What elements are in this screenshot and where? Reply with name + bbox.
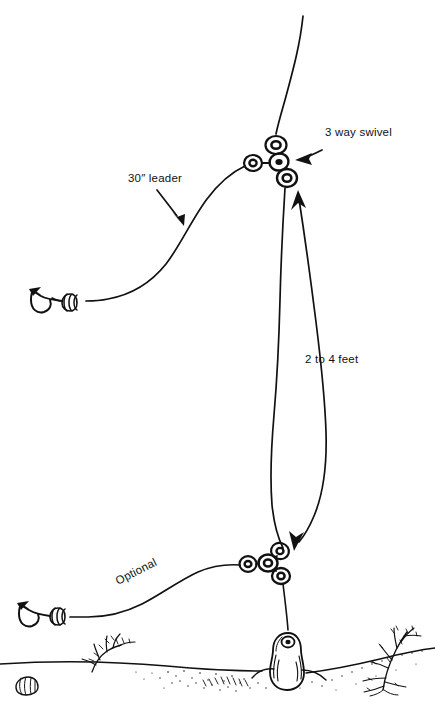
sand-stipple bbox=[135, 650, 422, 691]
label-optional-text: Optional bbox=[113, 556, 158, 587]
label-dropper-length-text: 2 to 4 feet bbox=[305, 353, 359, 365]
dropper-line bbox=[271, 188, 285, 548]
label-leader-text: 30″ leader bbox=[128, 172, 182, 184]
upper-leader-line bbox=[86, 166, 245, 301]
upper-swivel bbox=[244, 136, 297, 187]
lower-hook-knot bbox=[50, 608, 65, 625]
dimension-arrow bbox=[289, 190, 326, 551]
fishing-rig-diagram: 3 way swivel 30″ leader 2 to 4 feet Opti… bbox=[0, 0, 435, 709]
main-line bbox=[276, 16, 303, 134]
rig-illustration: 3 way swivel 30″ leader 2 to 4 feet Opti… bbox=[0, 0, 435, 709]
seaweed-left bbox=[82, 634, 135, 672]
upper-hook bbox=[29, 287, 77, 312]
lower-hook bbox=[17, 601, 65, 626]
label-leader: 30″ leader bbox=[128, 172, 185, 226]
label-3-way-swivel: 3 way swivel bbox=[295, 126, 392, 165]
lower-leader-line bbox=[70, 565, 240, 617]
label-optional: Optional bbox=[113, 556, 158, 587]
sinker-line bbox=[283, 584, 288, 630]
seaweed-right bbox=[363, 626, 421, 696]
seabed bbox=[0, 648, 435, 692]
label-dropper-length: 2 to 4 feet bbox=[305, 353, 359, 365]
sinker bbox=[270, 633, 304, 690]
sediment-hatch bbox=[203, 677, 248, 686]
shell-icon bbox=[16, 677, 38, 695]
label-3-way-swivel-text: 3 way swivel bbox=[325, 126, 392, 138]
upper-hook-knot bbox=[52, 294, 77, 311]
